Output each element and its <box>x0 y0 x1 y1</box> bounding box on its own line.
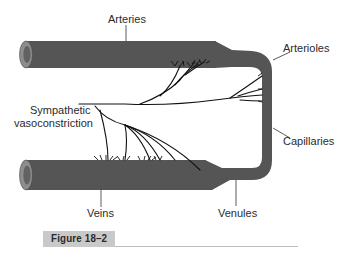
label-sympathetic-2: vasoconstriction <box>14 117 93 129</box>
label-veins: Veins <box>87 207 114 219</box>
label-arteries: Arteries <box>108 13 146 25</box>
artery-lumen <box>23 46 30 63</box>
vasculature-diagram: Arteries Arterioles Sympathetic vasocons… <box>0 0 344 257</box>
label-arterioles: Arterioles <box>283 42 330 54</box>
vein-lumen <box>23 166 30 185</box>
label-sympathetic-1: Sympathetic <box>30 104 91 116</box>
figure-caption: Figure 18–2 <box>51 232 107 244</box>
label-venules: Venules <box>218 207 258 219</box>
nerve-terminals <box>94 59 262 160</box>
label-capillaries: Capillaries <box>283 135 335 147</box>
caption-rule <box>115 246 298 247</box>
sympathetic-nerves <box>79 62 262 170</box>
